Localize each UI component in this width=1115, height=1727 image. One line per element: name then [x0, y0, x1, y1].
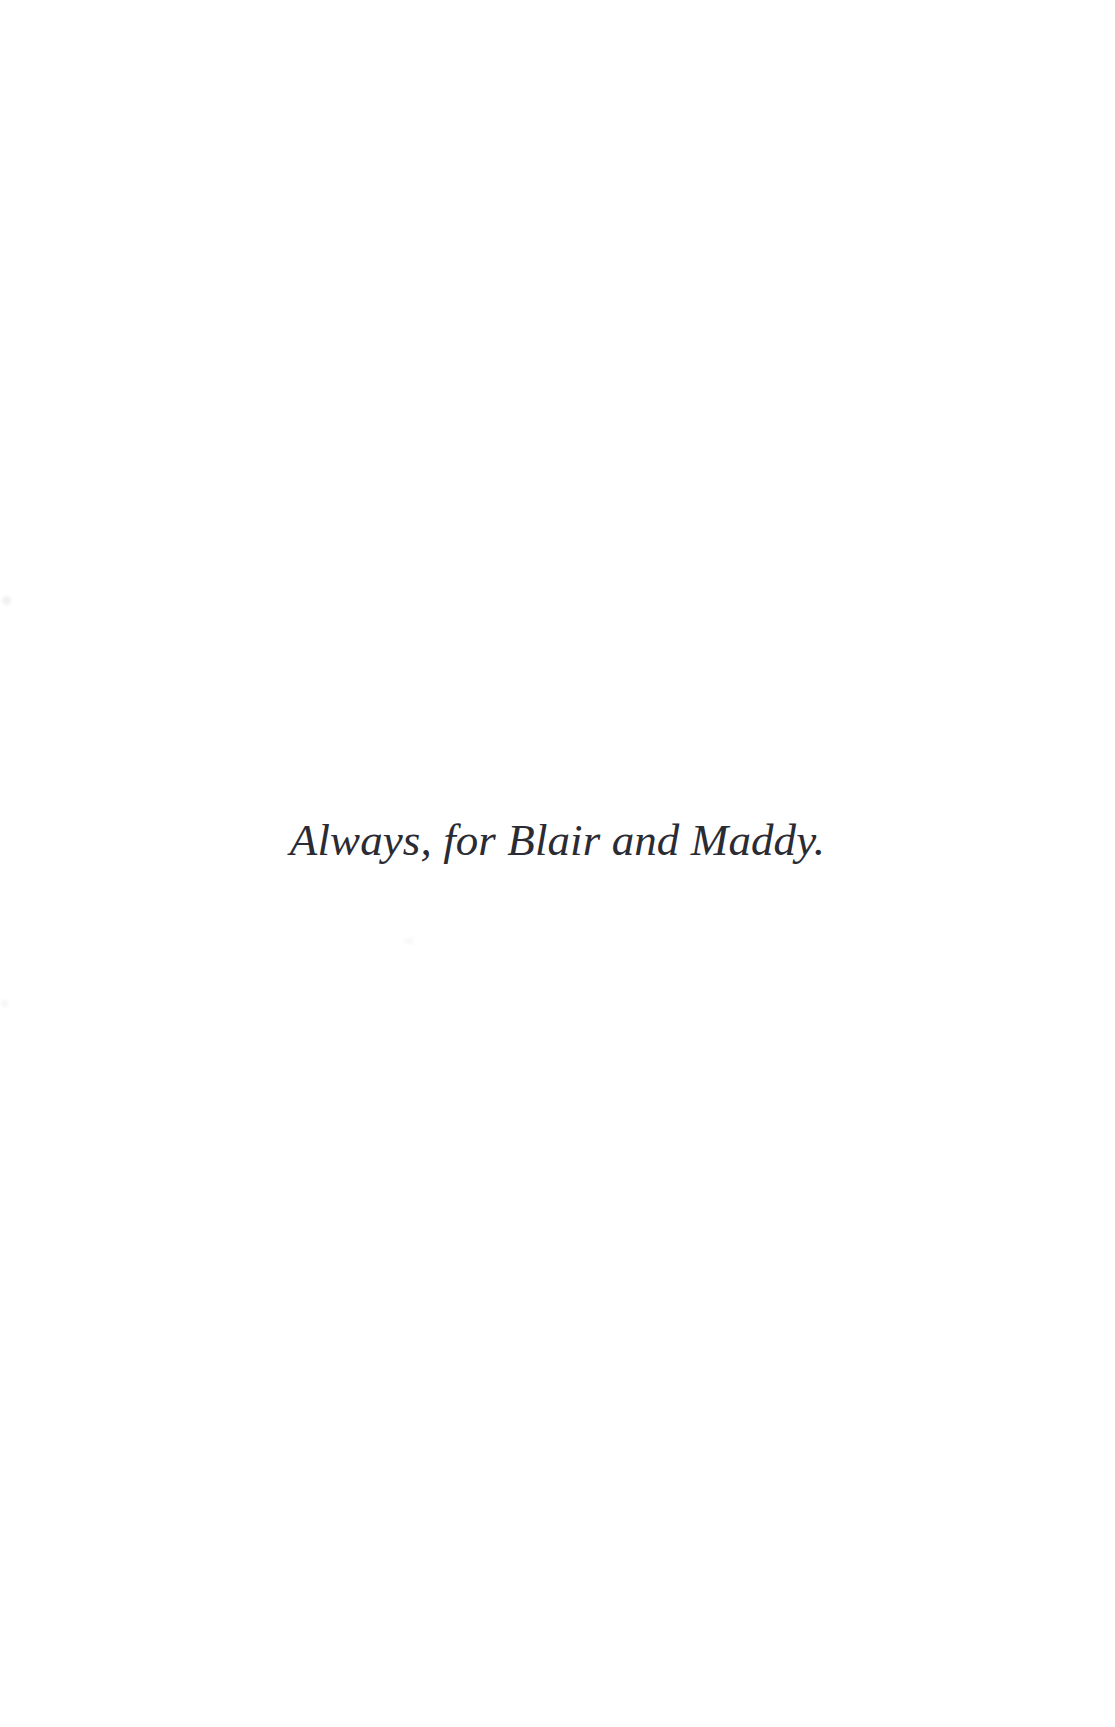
dedication-text: Always, for Blair and Maddy.	[290, 811, 825, 869]
scan-artifact-speckle	[1, 1000, 8, 1007]
dedication-block: Always, for Blair and Maddy.	[0, 766, 1115, 914]
dedication-page: Always, for Blair and Maddy.	[0, 0, 1115, 1727]
scan-artifact-speckle	[404, 938, 414, 944]
scan-artifact-speckle	[2, 596, 11, 605]
